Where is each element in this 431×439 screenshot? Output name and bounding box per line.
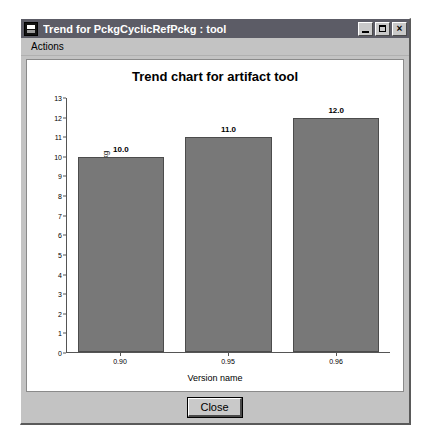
close-button[interactable]: Close	[188, 398, 241, 417]
bar-value-label: 11.0	[175, 125, 283, 134]
y-tick-mark	[63, 254, 66, 255]
y-tick-mark	[63, 274, 66, 275]
bar-slot: 12.0	[282, 98, 390, 352]
x-tick-label: 0.90	[113, 358, 127, 365]
y-tick-mark	[63, 196, 66, 197]
window-app-icon	[24, 22, 38, 36]
chart-panel: Trend chart for artifact tool Metric val…	[26, 59, 404, 392]
bar-value-label: 12.0	[282, 106, 390, 115]
y-tick-mark	[63, 215, 66, 216]
x-tick-mark	[120, 353, 121, 356]
menu-item-actions[interactable]: Actions	[27, 40, 68, 53]
window-controls: ×	[358, 22, 407, 36]
window-title: Trend for PckgCyclicRefPckg : tool	[43, 23, 358, 35]
bar-value-label: 10.0	[67, 145, 175, 154]
bar-series: 10.011.012.0	[67, 98, 390, 352]
close-icon[interactable]: ×	[392, 22, 407, 36]
window-footer: Close	[21, 392, 409, 423]
bar-slot: 11.0	[175, 98, 283, 352]
y-tick-mark	[63, 137, 66, 138]
screen: Trend for PckgCyclicRefPckg : tool × Act…	[0, 0, 431, 439]
bar[interactable]	[185, 137, 271, 352]
x-tick-mark	[336, 353, 337, 356]
y-tick-mark	[63, 117, 66, 118]
y-tick-mark	[63, 156, 66, 157]
y-tick-mark	[63, 313, 66, 314]
menubar: Actions	[21, 38, 409, 56]
chart-container: Trend chart for artifact tool Metric val…	[21, 56, 409, 392]
y-tick-mark	[63, 98, 66, 99]
window-titlebar[interactable]: Trend for PckgCyclicRefPckg : tool ×	[21, 19, 409, 38]
minimize-button[interactable]	[358, 22, 373, 36]
bar-slot: 10.0	[67, 98, 175, 352]
y-tick-mark	[63, 235, 66, 236]
y-tick-mark	[63, 353, 66, 354]
maximize-button[interactable]	[375, 22, 390, 36]
bar[interactable]	[293, 118, 379, 352]
y-tick-mark	[63, 176, 66, 177]
y-tick-mark	[63, 333, 66, 334]
y-tick-mark	[63, 294, 66, 295]
trend-chart-window: Trend for PckgCyclicRefPckg : tool × Act…	[20, 18, 411, 425]
x-axis-label: Version name	[27, 373, 403, 383]
bar[interactable]	[78, 157, 164, 352]
plot-area: 10.011.012.0 0123456789101112130.900.950…	[66, 98, 390, 353]
x-tick-label: 0.95	[221, 358, 235, 365]
x-tick-label: 0.96	[329, 358, 343, 365]
chart-title: Trend chart for artifact tool	[27, 69, 403, 84]
x-tick-mark	[228, 353, 229, 356]
